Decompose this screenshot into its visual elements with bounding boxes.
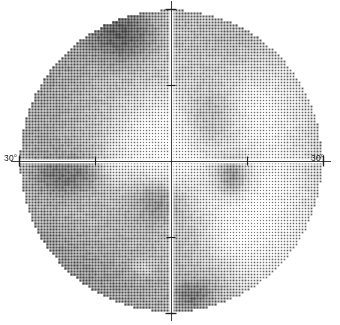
axis-label-left-30deg: 30° (4, 153, 17, 163)
axis-label-right-30deg: 30° (311, 153, 324, 163)
visual-field-plot: 30° 30° (0, 0, 340, 325)
visual-field-grayscale-canvas (0, 0, 340, 325)
